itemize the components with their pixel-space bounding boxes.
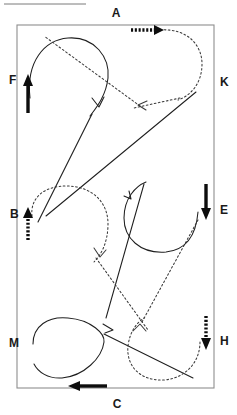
dotted-loop-upper-right [160,30,202,100]
dotted-diagonal-2 [44,36,140,106]
path-diagram-root: A K E H C M B F [0,0,237,415]
dotted-arrowhead-2 [94,248,106,257]
diagram-canvas: A K E H C M B F [0,0,237,415]
dotted-arrowhead-1 [138,101,147,110]
label-A: A [112,6,121,20]
solid-arrowhead-3 [103,324,113,333]
label-H: H [220,334,229,348]
solid-diagonal-2 [46,92,196,216]
solid-arrowhead-2 [124,191,131,199]
boundary-arrow-E [201,184,211,220]
label-F: F [9,73,16,87]
solid-trajectory-group [29,38,198,378]
label-C: C [113,397,122,411]
label-M: M [9,336,19,350]
label-E: E [220,203,228,217]
dotted-loop-lower-right [128,318,200,380]
boundary-arrow-C [68,381,107,391]
solid-diagonal-4 [104,334,193,378]
label-B: B [10,207,19,221]
label-K: K [220,75,229,89]
boundary-arrow-F [23,74,33,113]
dotted-diagonal-4 [142,220,198,322]
dotted-trajectory-group [32,30,202,380]
rectangle-field-boundary [17,25,214,388]
solid-loop-lower-left [33,318,104,378]
dotted-loop-middle-left [32,186,108,262]
boundary-arrow-A [131,25,164,35]
boundary-arrow-H [201,316,211,350]
dotted-diagonal-3 [96,258,148,330]
solid-diagonal-1 [38,114,92,222]
